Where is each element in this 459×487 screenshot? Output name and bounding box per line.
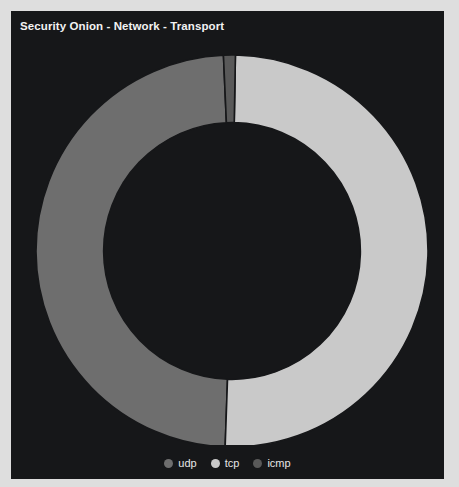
legend-label: tcp [225,457,240,469]
donut-chart [11,33,444,445]
dashboard-panel: Security Onion - Network - Transport udp… [11,11,444,479]
donut-chart-svg [11,33,444,445]
page-title: Security Onion - Network - Transport [20,19,224,33]
donut-slice-tcp[interactable] [225,55,428,445]
legend-label: icmp [267,457,290,469]
legend-label: udp [178,457,196,469]
legend-item-tcp[interactable]: tcp [211,457,240,469]
legend-item-icmp[interactable]: icmp [253,457,290,469]
legend-item-udp[interactable]: udp [164,457,196,469]
donut-slice-icmp[interactable] [223,55,235,123]
legend-swatch-tcp-icon [211,459,220,468]
legend-swatch-icmp-icon [253,459,262,468]
donut-slice-group [36,55,428,445]
page-background: Security Onion - Network - Transport udp… [0,0,459,487]
donut-slice-udp[interactable] [36,55,228,445]
chart-legend: udptcpicmp [11,457,444,469]
legend-swatch-udp-icon [164,459,173,468]
